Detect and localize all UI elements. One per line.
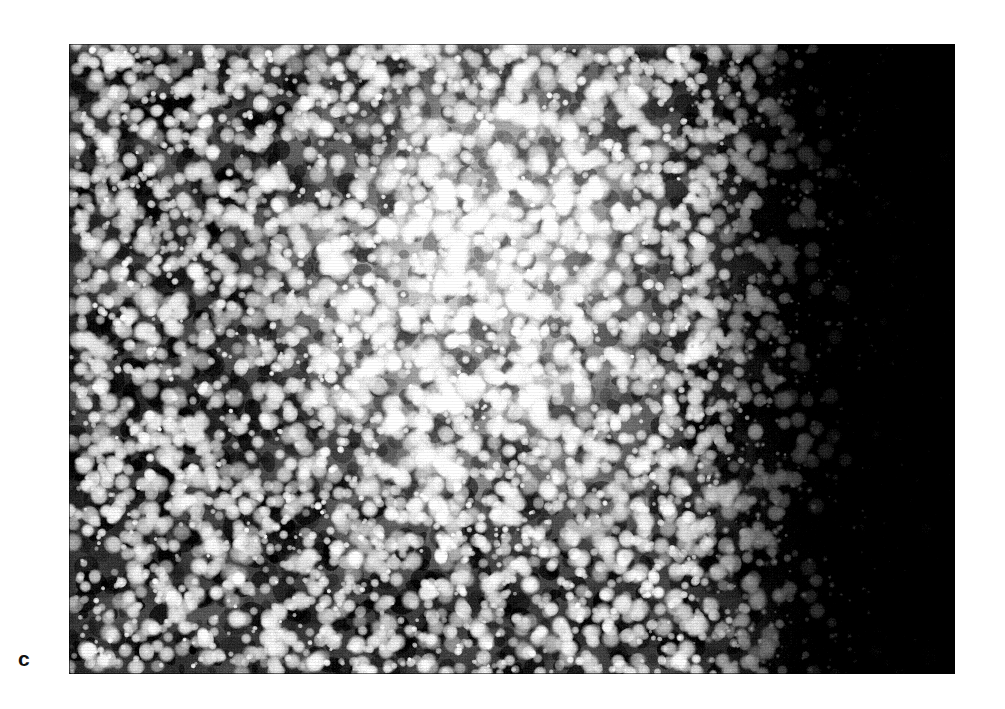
micrograph-canvas — [69, 44, 955, 674]
panel-label: c — [18, 648, 30, 669]
micrograph-image — [69, 44, 955, 674]
figure-panel: c — [0, 0, 1005, 709]
